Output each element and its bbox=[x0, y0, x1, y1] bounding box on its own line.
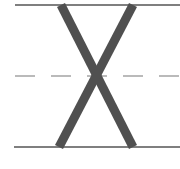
handwriting-worksheet: X bbox=[0, 0, 180, 169]
letter-practice-canvas bbox=[0, 0, 180, 169]
